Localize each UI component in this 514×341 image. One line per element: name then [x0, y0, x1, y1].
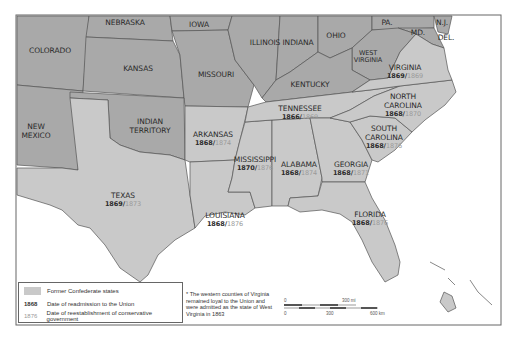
legend-confederate-label: Former Confederate states: [47, 288, 119, 294]
label-del: DEL.: [438, 33, 455, 42]
label-new-mexico: NEWMEXICO: [21, 122, 50, 140]
legend-conservative-year: 1876: [24, 313, 41, 319]
west-virginia-footnote: * The western counties of Virginia remai…: [186, 291, 278, 317]
label-georgia: GEORGIA1868/1871: [333, 160, 369, 178]
label-arkansas: ARKANSAS1868/1874: [193, 130, 233, 148]
label-nebraska: NEBRASKA: [105, 18, 144, 27]
label-kansas: KANSAS: [123, 64, 153, 73]
label-missouri: MISSOURI: [198, 70, 234, 79]
scale-bar: 0 300 mi 0 300 600 km: [282, 298, 392, 320]
label-indian-territory: INDIANTERRITORY: [130, 117, 171, 135]
label-indiana: INDIANA: [283, 38, 314, 47]
scale-bottom-mid: 300: [326, 311, 334, 316]
label-north-carolina: NORTHCAROLINA1868/1870: [384, 92, 422, 119]
label-tennessee: TENNESSEE1866/1869: [278, 104, 321, 122]
label-louisiana: LOUISIANA1868/1876: [205, 211, 244, 229]
label-md: MD.: [411, 28, 425, 37]
scale-top-zero: 0: [284, 298, 287, 303]
legend-readmission-label: Date of readmission to the Union: [47, 301, 134, 307]
legend-readmission-year: 1868: [24, 301, 41, 307]
confederate-swatch: [24, 287, 41, 295]
legend-conservative-label: Date of reestablishment of conservative …: [47, 310, 182, 322]
scale-km-bar: [284, 307, 378, 309]
label-florida: FLORIDA1868/1876: [352, 210, 388, 228]
label-alabama: ALABAMA1868/1874: [281, 160, 317, 178]
label-illinois: ILLINOIS: [250, 38, 280, 47]
label-nj: N.J.: [436, 18, 448, 27]
label-west-virginia: WESTVIRGINIA: [354, 50, 382, 64]
label-kentucky: KENTUCKY: [290, 80, 329, 89]
label-ohio: OHIO: [326, 31, 345, 40]
label-virginia: VIRGINIA1869/1869: [387, 63, 423, 81]
legend-row-readmission: 1868 Date of readmission to the Union: [24, 299, 134, 309]
legend-row-conservative: 1876 Date of reestablishment of conserva…: [24, 311, 182, 321]
label-texas: TEXAS1869/1873: [105, 191, 141, 209]
scale-top-end: 300 mi: [342, 298, 356, 303]
label-pa: PA.: [381, 18, 392, 27]
label-mississippi: MISSISSIPPI1870/1876: [234, 155, 276, 173]
label-colorado: COLORADO: [29, 46, 71, 55]
label-iowa: IOWA: [189, 20, 209, 29]
map-legend: Former Confederate states 1868 Date of r…: [18, 282, 183, 323]
legend-row-confederate: Former Confederate states: [24, 286, 119, 296]
scale-mi-bar: [284, 304, 356, 306]
scale-bottom-zero: 0: [284, 311, 287, 316]
scale-bottom-end: 600 km: [370, 311, 385, 316]
label-south-carolina: SOUTHCAROLINA1868/1876: [365, 124, 403, 151]
